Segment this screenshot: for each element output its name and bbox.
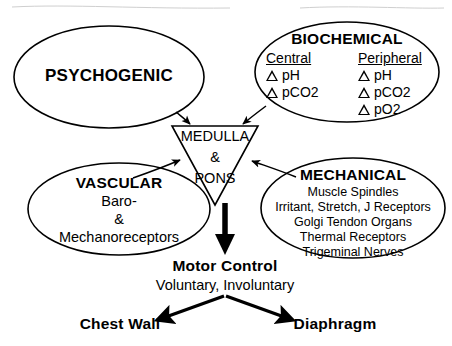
motor-control-subtitle: Voluntary, Involuntary [115,278,335,294]
arrow-to-chest-wall [163,296,224,318]
peripheral-item-pco2-label: pCO2 [374,84,411,100]
ampersand-label: & [165,150,265,166]
central-item-ph: pH [266,67,319,83]
central-item-ph-label: pH [282,67,300,83]
delta-triangle-icon [358,87,370,98]
peripheral-item-po2-label: pO2 [374,101,400,117]
peripheral-item-pco2: pCO2 [358,84,422,100]
motor-control-title: Motor Control [125,258,325,275]
peripheral-item-ph: pH [358,67,422,83]
peripheral-heading: Peripheral [358,50,422,66]
central-item-pco2: pCO2 [266,84,319,100]
medulla-label: MEDULLA [165,129,265,145]
delta-triangle-icon [358,70,370,81]
arrow-biochemical-to-medulla [243,106,266,124]
breathing-control-diagram: PSYCHOGENIC BIOCHEMICAL Central pH pCO2 … [0,0,452,346]
biochemical-title: BIOCHEMICAL [257,31,437,48]
vascular-line-1: Baro- [29,194,209,210]
delta-triangle-icon [358,104,370,115]
biochemical-central-group: Central pH pCO2 [266,50,319,100]
delta-triangle-icon [266,70,278,81]
mechanical-line-1: Muscle Spindles [263,186,443,200]
delta-triangle-icon [266,87,278,98]
diaphragm-label: Diaphragm [265,316,405,333]
vascular-line-2: & [29,212,209,228]
peripheral-item-po2: pO2 [358,101,422,117]
arrow-psychogenic-to-medulla [176,112,190,124]
vascular-title: VASCULAR [29,175,209,192]
mechanical-line-4: Thermal Receptors [263,231,443,245]
central-item-pco2-label: pCO2 [282,84,319,100]
arrow-motor-head [215,234,235,255]
central-heading: Central [266,50,319,66]
mechanical-title: MECHANICAL [263,167,443,184]
chest-wall-label: Chest Wall [50,316,190,333]
arrow-to-diaphragm [226,296,287,318]
mechanical-line-3: Golgi Tendon Organs [263,216,443,230]
peripheral-item-ph-label: pH [374,67,392,83]
vascular-line-3: Mechanoreceptors [29,230,209,246]
mechanical-line-2: Irritant, Stretch, J Receptors [258,201,448,215]
biochemical-peripheral-group: Peripheral pH pCO2 pO2 [358,50,422,117]
psychogenic-label: PSYCHOGENIC [9,67,209,85]
